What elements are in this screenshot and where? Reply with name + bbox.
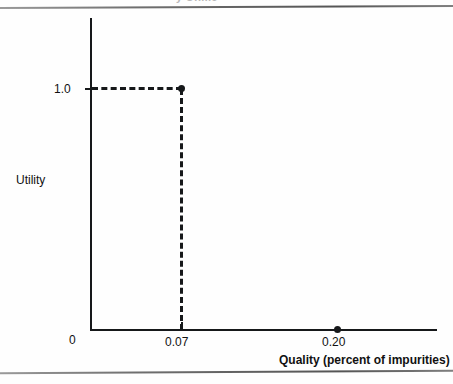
dashed-guide-vertical [180,89,183,330]
x-axis-tick-label-0-07: 0.07 [165,335,188,349]
page-rule-bottom [0,370,453,374]
x-axis-title: Quality (percent of impurities) [279,353,450,367]
page-rule-top [0,5,453,9]
clipped-caption: y Onme [176,0,218,3]
y-axis-tick-label-1-0: 1.0 [54,82,71,96]
x-axis-tick-label-origin: 0 [69,333,76,347]
data-point-0-20 [334,326,341,333]
y-axis-title: Utility [16,173,45,187]
y-axis-line [90,18,92,331]
dashed-guide-horizontal [92,87,182,90]
data-point-0-07 [178,85,185,92]
x-axis-tick-label-0-20: 0.20 [322,335,345,349]
utility-quality-chart: y Onme 1.0 0 0.07 0.20 Utility Quality (… [0,0,453,384]
x-axis-line [90,329,437,331]
